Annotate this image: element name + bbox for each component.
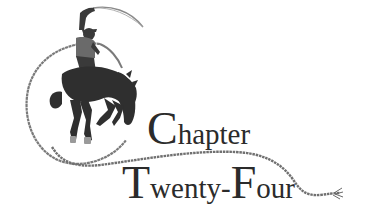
chapter-number: Twenty-Four: [122, 160, 295, 206]
number-rest-2: our: [256, 172, 295, 204]
chapter-initial: C: [147, 103, 178, 154]
number-initial-2: F: [231, 157, 257, 208]
number-initial-1: T: [122, 157, 150, 208]
number-rest-1: wenty-: [150, 172, 231, 204]
chapter-rest: hapter: [178, 118, 250, 150]
chapter-heading-word: Chapter: [147, 106, 250, 152]
